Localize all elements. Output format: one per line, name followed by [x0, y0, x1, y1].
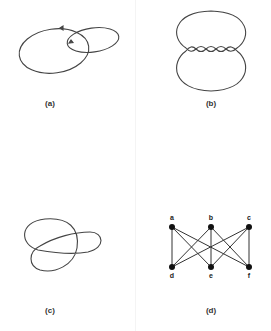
figure-svg: [0, 0, 271, 331]
graph-node-b: [208, 224, 214, 230]
node-label-e: e: [209, 272, 213, 279]
arrow-icon: [60, 26, 63, 30]
caption-b: (b): [206, 99, 216, 108]
node-label-c: c: [247, 214, 251, 221]
node-label-f: f: [248, 272, 250, 279]
arrow-icon: [69, 40, 73, 43]
node-label-d: d: [170, 272, 174, 279]
figure-canvas: a b c d e f (a) (b) (c) (d): [0, 0, 271, 331]
figure-c-trefoil: [25, 219, 101, 271]
caption-d: (d): [206, 306, 216, 315]
node-label-a: a: [170, 214, 174, 221]
graph-node-e: [208, 264, 214, 270]
graph-node-f: [246, 264, 252, 270]
graph-node-c: [246, 224, 252, 230]
graph-node-a: [169, 224, 175, 230]
figure-d-graph: [169, 224, 252, 270]
graph-node-d: [169, 264, 175, 270]
caption-a: (a): [45, 99, 55, 108]
caption-c: (c): [45, 306, 55, 315]
node-label-b: b: [209, 214, 213, 221]
figure-b-twisted-band: [177, 11, 246, 91]
figure-a-link: [16, 24, 120, 77]
